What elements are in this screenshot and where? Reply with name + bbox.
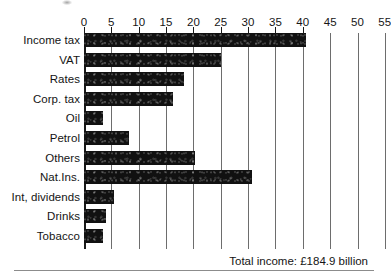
category-label-others: Others xyxy=(0,151,80,165)
category-label-tobacco: Tobacco xyxy=(0,229,80,243)
bar-row xyxy=(84,53,376,67)
category-label-oil: Oil xyxy=(0,111,80,125)
bottom-divider xyxy=(14,270,374,271)
gridline-55 xyxy=(385,33,386,249)
x-axis-tick-labels: 0510152025303540455055 xyxy=(0,14,380,30)
tickmark-30 xyxy=(248,27,249,34)
category-label-income-tax: Income tax xyxy=(0,33,80,47)
bar-row xyxy=(84,209,376,223)
bar-row xyxy=(84,72,376,86)
bar-income-tax xyxy=(84,33,306,47)
bar-tobacco xyxy=(84,229,103,243)
scan-artifact xyxy=(62,0,72,5)
bar-row xyxy=(84,229,376,243)
bar-petrol xyxy=(84,131,129,145)
plot-area xyxy=(84,33,376,249)
bar-row xyxy=(84,92,376,106)
bar-vat xyxy=(84,53,221,67)
tickmark-40 xyxy=(303,27,304,34)
bar-int-dividends xyxy=(84,190,114,204)
tickmark-25 xyxy=(221,27,222,34)
category-label-int-dividends: Int, dividends xyxy=(0,190,80,204)
y-axis-category-labels: Income taxVATRatesCorp. taxOilPetrolOthe… xyxy=(0,33,80,252)
x-tick-label-55: 55 xyxy=(378,14,391,30)
category-label-vat: VAT xyxy=(0,53,80,67)
x-tick-label-50: 50 xyxy=(351,14,364,30)
bar-row xyxy=(84,33,376,47)
tickmark-15 xyxy=(166,27,167,34)
x-tick-label-45: 45 xyxy=(324,14,337,30)
tickmark-20 xyxy=(193,27,194,34)
bar-nat-ins xyxy=(84,170,252,184)
bar-row xyxy=(84,190,376,204)
category-label-corp-tax: Corp. tax xyxy=(0,92,80,106)
tickmark-10 xyxy=(139,27,140,34)
tickmark-0 xyxy=(84,27,85,34)
bar-row xyxy=(84,151,376,165)
bar-rates xyxy=(84,72,184,86)
tickmark-35 xyxy=(275,27,276,34)
bar-row xyxy=(84,170,376,184)
bar-oil xyxy=(84,111,103,125)
bar-row xyxy=(84,111,376,125)
bar-rows xyxy=(84,33,376,249)
category-label-nat-ins: Nat.Ins. xyxy=(0,170,80,184)
category-label-petrol: Petrol xyxy=(0,131,80,145)
category-label-rates: Rates xyxy=(0,72,80,86)
bar-others xyxy=(84,151,195,165)
bar-corp-tax xyxy=(84,92,173,106)
bar-drinks xyxy=(84,209,106,223)
total-income-annotation: Total income: £184.9 billion xyxy=(229,254,368,268)
tickmark-5 xyxy=(111,27,112,34)
bar-row xyxy=(84,131,376,145)
category-label-drinks: Drinks xyxy=(0,209,80,223)
